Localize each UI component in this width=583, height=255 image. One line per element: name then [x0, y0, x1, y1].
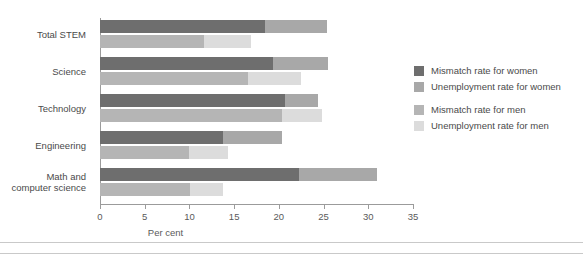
bar-segment — [100, 109, 282, 122]
bar-men — [0, 183, 583, 196]
footer-rule-top — [0, 242, 583, 243]
legend-label: Mismatch rate for women — [431, 65, 538, 76]
x-tick — [324, 204, 325, 209]
legend-item: Mismatch rate for women — [414, 63, 561, 78]
bar-women — [0, 168, 583, 181]
bar-segment — [100, 146, 189, 159]
x-axis-line — [100, 204, 414, 205]
x-tick — [413, 204, 414, 209]
legend-label: Mismatch rate for men — [431, 104, 526, 115]
legend-label: Unemployment rate for men — [431, 120, 549, 131]
x-tick — [368, 204, 369, 209]
bar-segment — [204, 35, 251, 48]
legend-item: Unemployment rate for men — [414, 118, 561, 133]
bar-segment — [100, 72, 248, 85]
x-tick — [189, 204, 190, 209]
bar-segment — [100, 131, 223, 144]
legend-swatch — [414, 82, 424, 92]
legend-swatch — [414, 121, 424, 131]
footer-rule-bottom — [0, 253, 583, 254]
bar-men — [0, 146, 583, 159]
x-tick — [100, 204, 101, 209]
bar-men — [0, 35, 583, 48]
x-tick-label: 35 — [408, 211, 419, 222]
legend-item: Mismatch rate for men — [414, 102, 561, 117]
x-tick-label: 10 — [184, 211, 195, 222]
x-axis-title: Per cent — [0, 227, 583, 238]
bar-segment — [100, 35, 204, 48]
bar-segment — [100, 168, 299, 181]
x-tick-label: 30 — [363, 211, 374, 222]
bar-segment — [285, 94, 318, 107]
x-tick — [279, 204, 280, 209]
x-axis-title-label: Per cent — [148, 227, 183, 238]
x-tick-label: 15 — [229, 211, 240, 222]
bar-segment — [273, 57, 328, 70]
bar-segment — [282, 109, 322, 122]
bar-segment — [190, 183, 222, 196]
bar-segment — [100, 57, 273, 70]
chart-figure: 05101520253035 Per cent Total STEMScienc… — [0, 0, 583, 255]
x-tick-label: 20 — [274, 211, 285, 222]
bar-segment — [265, 20, 328, 33]
bar-segment — [100, 94, 285, 107]
x-tick-label: 0 — [97, 211, 102, 222]
legend-swatch — [414, 105, 424, 115]
bar-segment — [299, 168, 378, 181]
bar-segment — [100, 20, 265, 33]
bar-segment — [248, 72, 301, 85]
bar-segment — [100, 183, 190, 196]
x-tick — [234, 204, 235, 209]
bar-segment — [189, 146, 227, 159]
bar-women — [0, 20, 583, 33]
legend-item: Unemployment rate for women — [414, 79, 561, 94]
legend-label: Unemployment rate for women — [431, 81, 561, 92]
x-tick — [145, 204, 146, 209]
chart-legend: Mismatch rate for womenUnemployment rate… — [414, 63, 561, 134]
x-tick-label: 25 — [318, 211, 329, 222]
bar-segment — [223, 131, 283, 144]
x-tick-label: 5 — [142, 211, 147, 222]
legend-swatch — [414, 66, 424, 76]
